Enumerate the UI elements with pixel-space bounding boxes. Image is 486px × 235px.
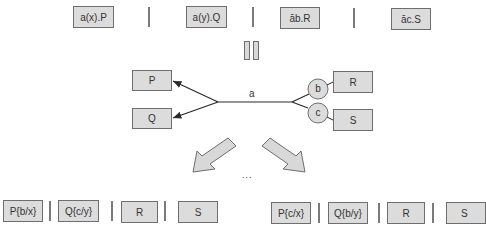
channel-label: a <box>249 88 255 99</box>
process-box-br-1: P{c/x} <box>271 202 311 224</box>
parallel-bar <box>49 201 51 221</box>
circle-label-b: b <box>308 83 328 94</box>
right-transition-arrow <box>262 138 305 172</box>
process-box-P: P <box>132 70 172 91</box>
parallel-bar <box>378 203 380 223</box>
process-box-bl-1: P{b/x} <box>3 200 43 222</box>
process-box-Q: Q <box>132 108 172 129</box>
process-box-br-4: S <box>446 202 486 224</box>
parallel-bar <box>318 203 320 223</box>
process-box-S: S <box>333 109 373 131</box>
process-box-br-2: Q{b/y} <box>328 202 368 224</box>
process-box-br-3: R <box>387 202 425 224</box>
process-box-bl-2: Q{c/y} <box>58 200 99 222</box>
circle-label-c: c <box>308 107 328 118</box>
process-box-R: R <box>333 71 373 93</box>
parallel-bar <box>432 203 434 223</box>
parallel-bar <box>111 201 113 221</box>
parallel-bar <box>164 201 166 221</box>
ellipsis: ... <box>242 170 253 180</box>
process-box-bl-4: S <box>178 201 218 223</box>
left-transition-arrow <box>193 138 236 172</box>
process-box-bl-3: R <box>121 201 158 223</box>
